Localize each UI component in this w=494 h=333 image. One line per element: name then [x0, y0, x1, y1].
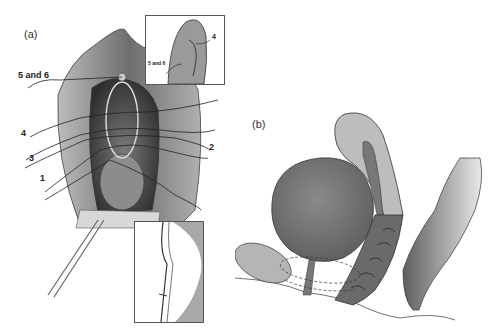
inset-top-detail: 4 5 and 6	[145, 15, 225, 85]
panel-b-illustration	[235, 100, 494, 333]
panel-b: (b)	[235, 100, 494, 333]
suture-label-4: 4	[21, 128, 26, 138]
inset-bottom-detail	[134, 221, 204, 323]
suture-label-5-and-6: 5 and 6	[18, 70, 49, 80]
inset-label-5-and-6: 5 and 6	[148, 60, 165, 66]
suture-label-2: 2	[209, 142, 214, 152]
panel-a-label: (a)	[24, 28, 37, 40]
panel-a: (a) 5 and 6 4 3 1 2 4 5 and 6	[0, 0, 240, 333]
suture-label-1: 1	[40, 173, 45, 183]
panel-b-label: (b)	[252, 118, 265, 130]
inset-label-4: 4	[212, 33, 216, 40]
suture-label-3: 3	[29, 153, 34, 163]
